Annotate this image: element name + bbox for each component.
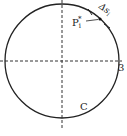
diagram-canvas: Pi* Δsi 3 C [0,0,127,136]
sample-point [98,17,101,20]
point-label: Pi* [72,15,82,30]
arc-tick-end [104,24,110,28]
axis-label-right: 3 [118,62,124,73]
point-leader-line [86,20,98,22]
arc-length-label: Δsi [96,0,114,17]
curve-label: C [80,101,88,112]
